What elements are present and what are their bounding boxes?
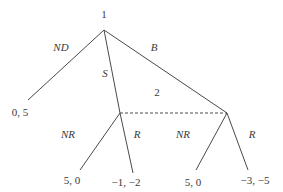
action-label-nd: ND — [52, 41, 68, 53]
payoff-b-nr: 5, 0 — [185, 176, 202, 188]
action-label-left-r: R — [133, 128, 141, 140]
action-label-left-nr: NR — [60, 128, 75, 140]
edge-right-nr — [196, 113, 227, 170]
player-1-label: 1 — [101, 8, 107, 20]
payoff-s-nr: 5, 0 — [64, 174, 81, 186]
payoff-s-r: −1, −2 — [112, 176, 141, 188]
action-label-right-nr: NR — [175, 128, 190, 140]
edge-left-r — [120, 113, 133, 173]
payoff-nd: 0, 5 — [12, 106, 29, 118]
edge-right-r — [227, 113, 248, 170]
action-label-right-r: R — [248, 128, 256, 140]
edge-b — [104, 30, 227, 113]
edge-left-nr — [80, 113, 120, 170]
action-label-b: B — [151, 41, 158, 53]
action-label-s: S — [102, 67, 108, 79]
player-2-label: 2 — [154, 86, 160, 98]
payoff-b-r: −3, −5 — [241, 174, 270, 186]
game-tree-diagram: 1 2 ND S B NR R NR R 0, 5 5, 0 −1, −2 5,… — [0, 0, 283, 192]
